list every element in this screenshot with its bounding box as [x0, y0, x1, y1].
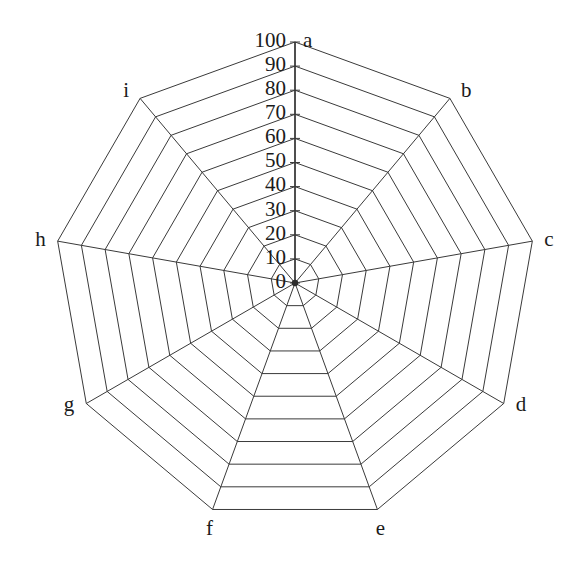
radar-chart: 0102030405060708090100 abcdefghi [0, 0, 580, 566]
radar-chart-canvas: 0102030405060708090100 abcdefghi [0, 0, 580, 566]
chart-origin-marker [292, 280, 298, 286]
tick-labels: 0102030405060708090100 [255, 28, 287, 293]
tick-label-10: 10 [265, 245, 286, 269]
tick-label-40: 40 [265, 172, 286, 196]
tick-label-100: 100 [255, 28, 287, 52]
tick-label-20: 20 [265, 221, 286, 245]
vertex-label-e: e [376, 516, 385, 540]
vertex-label-f: f [206, 516, 213, 540]
axis-spoke-c [295, 241, 532, 283]
vertex-label-i: i [123, 78, 129, 102]
radial-axis [290, 42, 300, 283]
tick-label-50: 50 [265, 148, 286, 172]
axis-spoke-h [58, 241, 295, 283]
vertex-label-h: h [35, 227, 46, 251]
axis-spoke-b [295, 98, 450, 283]
axis-spoke-d [295, 283, 504, 404]
center-point [292, 280, 298, 286]
vertex-label-c: c [544, 227, 553, 251]
vertex-label-b: b [461, 78, 472, 102]
tick-label-30: 30 [265, 197, 286, 221]
tick-label-0: 0 [276, 269, 287, 293]
tick-label-90: 90 [265, 52, 286, 76]
tick-label-60: 60 [265, 124, 286, 148]
axis-spoke-g [86, 283, 295, 404]
tick-label-70: 70 [265, 100, 286, 124]
vertex-label-d: d [516, 392, 527, 416]
vertex-label-a: a [303, 28, 313, 52]
vertex-label-g: g [64, 392, 75, 416]
tick-label-80: 80 [265, 76, 286, 100]
